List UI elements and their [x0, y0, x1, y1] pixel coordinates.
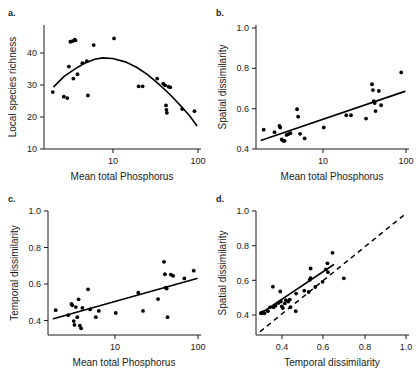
data-point [288, 131, 292, 135]
data-point [70, 303, 74, 307]
panel-c-ytick-3: 1.0 [28, 206, 41, 216]
data-point [278, 290, 282, 294]
panel-d-ytick-2: 0.8 [236, 241, 249, 251]
data-point [296, 115, 300, 119]
panel-a-ytick-0: 10 [27, 144, 37, 154]
data-point [302, 289, 306, 293]
panel-b-xtick-1: 100 [398, 156, 413, 166]
data-point [76, 72, 80, 76]
data-point [171, 274, 175, 278]
data-point [294, 292, 298, 296]
data-point [371, 88, 375, 92]
data-point [344, 113, 348, 117]
data-point [92, 43, 96, 47]
data-point [137, 84, 141, 88]
data-point [163, 83, 167, 87]
data-point [51, 90, 55, 94]
panel-b-points [262, 71, 403, 143]
panel-d-x-ticks: 0.4 0.6 0.8 1.0 [276, 335, 413, 352]
data-point [67, 65, 71, 69]
panel-c-xtick-1: 100 [190, 342, 205, 352]
panel-a-xtick-0: 10 [108, 156, 118, 166]
panel-c-ylabel: Temporal dissimilarity [9, 225, 20, 321]
panel-c-ytick-0: 0.4 [28, 316, 41, 326]
data-point [377, 89, 381, 93]
data-point [164, 104, 168, 108]
data-point [281, 306, 285, 310]
data-point [370, 82, 374, 86]
data-point [278, 126, 282, 130]
panel-c-y-ticks: 0.4 0.6 0.8 1.0 [28, 206, 48, 326]
panel-b-letter: b. [216, 8, 224, 18]
panel-a-ytick-2: 30 [27, 80, 37, 90]
panel-d-ytick-3: 1.0 [236, 206, 249, 216]
panel-b-ytick-1: 0.6 [236, 104, 249, 114]
panel-a: a. 10 20 30 40 10 100 Mean total [0, 0, 208, 186]
panel-a-plot: a. 10 20 30 40 10 100 Mean total [0, 0, 208, 186]
data-point [313, 285, 317, 289]
panel-a-x-ticks: 10 100 [108, 149, 206, 166]
data-point [271, 285, 275, 289]
data-point [193, 109, 197, 113]
data-point [331, 251, 335, 255]
panel-c-ytick-2: 0.8 [28, 243, 41, 253]
data-point [168, 85, 172, 89]
data-point [182, 277, 186, 281]
data-point [166, 315, 170, 319]
data-point [364, 117, 368, 121]
panel-a-points [51, 37, 196, 115]
panel-a-y-ticks: 10 20 30 40 [27, 48, 44, 154]
panel-c: c. 0.4 0.6 0.8 1.0 10 100 Mean total Pho… [0, 186, 208, 372]
data-point [294, 309, 298, 313]
panel-b-axes [256, 25, 409, 149]
panel-c-x-ticks: 10 100 [110, 335, 206, 352]
panel-a-ytick-3: 40 [27, 48, 37, 58]
data-point [326, 270, 330, 274]
data-point [114, 311, 118, 315]
data-point [72, 319, 76, 323]
panel-c-xtick-0: 10 [110, 342, 120, 352]
panel-c-axes [48, 211, 201, 335]
panel-b-xtick-0: 10 [318, 156, 328, 166]
data-point [307, 290, 311, 294]
panel-a-letter: a. [8, 8, 16, 18]
panel-d: d. 0.4 0.6 0.8 1.0 0.4 0.6 0.8 1. [208, 186, 416, 372]
data-point [79, 326, 83, 330]
data-point [298, 132, 302, 136]
panel-b: b. 0.4 0.6 0.8 1.0 10 100 Mean total Pho… [208, 0, 416, 186]
panel-c-xlabel: Mean total Phosphorus [73, 357, 176, 368]
panel-a-xlabel: Mean total Phosphorus [71, 171, 174, 182]
panel-d-ytick-1: 0.6 [236, 276, 249, 286]
panel-d-xlabel: Temporal dissimilarity [284, 357, 380, 368]
panel-b-ylabel: Spatial dissimilarity [217, 44, 228, 129]
panel-a-xtick-1: 100 [190, 156, 205, 166]
data-point [65, 96, 69, 100]
data-point [163, 272, 167, 276]
data-point [322, 126, 326, 130]
data-point [86, 287, 90, 291]
data-point [155, 77, 159, 81]
panel-c-fit-line [53, 278, 196, 318]
panel-b-fit-line [261, 91, 404, 140]
panel-d-fit-line [260, 265, 333, 314]
data-point [112, 37, 116, 41]
panel-d-xtick-0: 0.4 [276, 342, 289, 352]
panel-a-ylabel: Local species richness [7, 37, 18, 138]
panel-d-xtick-3: 1.0 [400, 342, 413, 352]
data-point [273, 130, 277, 134]
data-point [326, 261, 330, 265]
panel-b-ytick-2: 0.8 [236, 63, 249, 73]
data-point [94, 315, 98, 319]
data-point [97, 309, 101, 313]
data-point [86, 93, 90, 97]
panel-c-letter: c. [8, 194, 16, 204]
panel-c-ytick-1: 0.6 [28, 279, 41, 289]
panel-a-ytick-1: 20 [27, 112, 37, 122]
data-point [192, 269, 196, 273]
data-point [309, 267, 313, 271]
panel-d-ylabel: Spatial dissimilarity [217, 230, 228, 315]
data-point [74, 305, 78, 309]
panel-c-plot: c. 0.4 0.6 0.8 1.0 10 100 Mean total Pho… [0, 186, 208, 372]
data-point [303, 137, 307, 141]
panel-d-xtick-1: 0.6 [317, 342, 330, 352]
